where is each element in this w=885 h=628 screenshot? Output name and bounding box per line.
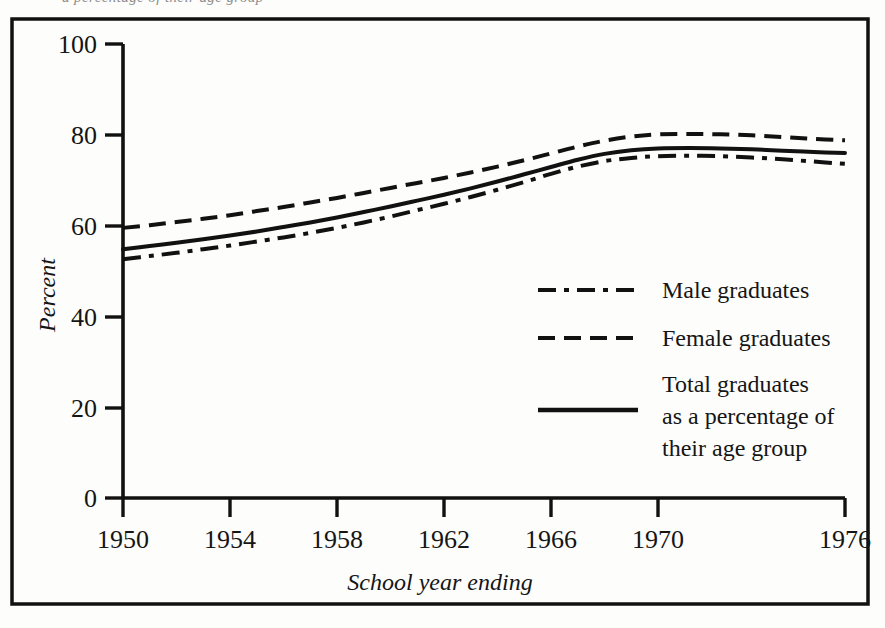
- chart-legend: Male graduates Female graduates Total gr…: [538, 277, 835, 461]
- x-axis-ticks: [123, 498, 845, 517]
- figure-container: a percentage of their age group 100 80 6…: [0, 0, 885, 628]
- x-tick-label-1958: 1958: [311, 525, 363, 554]
- y-tick-label-60: 60: [71, 212, 97, 241]
- y-tick-label-40: 40: [71, 303, 97, 332]
- legend-label-total-graduates-line1: Total graduates: [662, 371, 809, 397]
- x-tick-label-1970: 1970: [632, 525, 684, 554]
- series-group: [123, 134, 845, 259]
- y-tick-label-0: 0: [84, 484, 97, 513]
- line-chart: 100 80 60 40 20 0 Percent 1950 1954 1958…: [0, 0, 885, 628]
- legend-label-total-graduates-line2: as a percentage of: [662, 403, 835, 429]
- cropped-caption-above-figure: a percentage of their age group: [62, 0, 264, 6]
- x-tick-label-1954: 1954: [204, 525, 256, 554]
- legend-label-total-graduates-line3: their age group: [662, 435, 807, 461]
- y-tick-label-100: 100: [58, 30, 97, 59]
- figure-frame: [12, 19, 868, 604]
- series-line-total-graduates: [123, 148, 845, 249]
- legend-label-female-graduates: Female graduates: [662, 325, 831, 351]
- x-tick-label-1976: 1976: [819, 525, 871, 554]
- x-tick-label-1962: 1962: [418, 525, 470, 554]
- x-tick-label-1966: 1966: [525, 525, 577, 554]
- y-axis-title: Percent: [34, 257, 60, 333]
- x-axis-title: School year ending: [347, 569, 532, 595]
- legend-label-male-graduates: Male graduates: [662, 277, 809, 303]
- y-axis-ticks: [105, 44, 123, 498]
- y-tick-label-20: 20: [71, 394, 97, 423]
- x-tick-label-1950: 1950: [97, 525, 149, 554]
- y-tick-label-80: 80: [71, 121, 97, 150]
